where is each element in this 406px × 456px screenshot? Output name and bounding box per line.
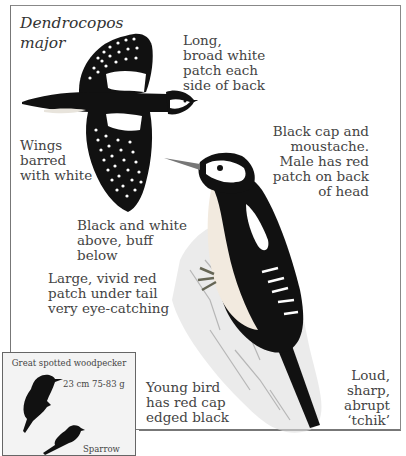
annotation-undertail: Large, vivid red patch under tail very e… — [48, 271, 169, 316]
annotation-back-patch: Long, broad white patch each side of bac… — [183, 33, 265, 93]
size-comparison-inset: Great spotted woodpecker 23 cm 75-83 g S… — [2, 352, 136, 456]
frame-right-edge — [400, 5, 401, 431]
annotation-young-bird: Young bird has red cap edged black — [146, 380, 229, 425]
inset-measurements: 23 cm 75-83 g — [63, 379, 125, 389]
annotation-head: Black cap and moustache. Male has red pa… — [270, 124, 369, 199]
sparrow-silhouette-icon — [41, 423, 85, 455]
annotation-plumage: Black and white above, buff below — [77, 218, 187, 263]
annotation-wings: Wings barred with white — [20, 138, 92, 183]
inset-sparrow-label: Sparrow — [83, 444, 120, 454]
inset-title: Great spotted woodpecker — [3, 358, 135, 368]
annotation-call: Loud, sharp, abrupt ‘tchik’ — [330, 368, 390, 428]
